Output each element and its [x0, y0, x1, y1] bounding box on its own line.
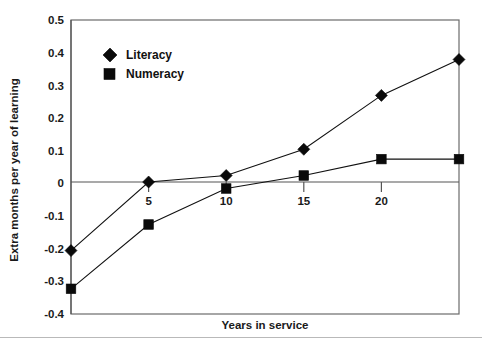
y-tick-label: 0.3 [48, 80, 64, 92]
x-tick-marks [149, 182, 382, 192]
chart-legend: Literacy Numeracy [103, 48, 184, 81]
legend-label-numeracy: Numeracy [126, 67, 184, 81]
y-tick-label: 0.4 [48, 47, 65, 59]
y-tick-label: -0.1 [44, 210, 64, 222]
diamond-marker-icon [453, 54, 465, 66]
x-tick-label: 15 [297, 195, 310, 207]
x-tick-labels: 5 10 15 20 [145, 195, 387, 207]
diamond-marker-icon [375, 89, 387, 101]
diamond-marker-icon [220, 170, 232, 182]
square-marker-icon [66, 284, 76, 294]
diamond-marker-icon [298, 143, 310, 155]
square-marker-icon [454, 154, 464, 164]
square-marker-icon [299, 171, 309, 181]
y-tick-label: 0.2 [48, 112, 64, 124]
series-line-literacy [71, 60, 459, 251]
series-line-numeracy [71, 159, 459, 289]
y-tick-labels: 0.5 0.4 0.3 0.2 0.1 0 -0.1 -0.2 -0.3 -0.… [44, 14, 64, 320]
plot-area-frame [71, 20, 459, 314]
y-tick-label: 0.5 [48, 14, 65, 26]
y-tick-label: -0.2 [44, 243, 64, 255]
x-axis-title: Years in service [222, 319, 309, 331]
legend-label-literacy: Literacy [126, 48, 172, 62]
chart-figure: 0.5 0.4 0.3 0.2 0.1 0 -0.1 -0.2 -0.3 -0.… [0, 0, 482, 347]
y-tick-label: -0.3 [44, 275, 64, 287]
line-chart: 0.5 0.4 0.3 0.2 0.1 0 -0.1 -0.2 -0.3 -0.… [0, 0, 482, 347]
series-markers-numeracy [66, 154, 464, 293]
y-axis-title: Extra months per year of learning [8, 78, 20, 261]
square-marker-icon [221, 184, 231, 194]
x-tick-label: 5 [145, 195, 152, 207]
x-tick-label: 10 [220, 195, 233, 207]
y-tick-label: 0.1 [48, 145, 65, 157]
square-marker-icon [377, 154, 387, 164]
square-marker-icon [104, 69, 115, 80]
x-tick-label: 20 [375, 195, 388, 207]
square-marker-icon [144, 220, 154, 230]
y-tick-label: -0.4 [44, 308, 64, 320]
y-tick-label: 0 [58, 177, 64, 189]
diamond-marker-icon [103, 48, 117, 62]
